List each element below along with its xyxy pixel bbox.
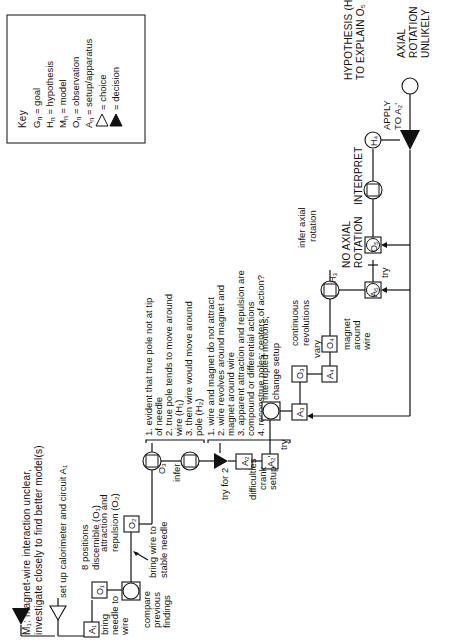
svg-text:try: try	[278, 439, 289, 450]
svg-text:stable needle: stable needle	[158, 521, 169, 578]
label-apply: APPLY TO A₂'	[381, 99, 403, 130]
node-axial-unlikely	[402, 78, 418, 94]
svg-text:A₄: A₄	[325, 369, 335, 379]
svg-text:APPLY: APPLY	[381, 99, 392, 130]
label-compare: compare previous findings	[141, 591, 172, 628]
svg-text:ROTATION: ROTATION	[353, 216, 364, 268]
svg-text:wire: wire	[361, 333, 372, 351]
svg-text:O₃: O₃	[295, 368, 305, 379]
svg-text:vary: vary	[311, 340, 322, 358]
svg-text:A₁: A₁	[87, 625, 97, 634]
key-entry-setup: An = setup/apparatus	[83, 39, 95, 128]
key-entry-goal: Gn = goal	[31, 88, 43, 128]
svg-text:H₄: H₄	[369, 136, 379, 146]
key-entry-hypothesis: Hn = hypothesis	[44, 61, 56, 128]
label-crank-setup: crank setup	[257, 467, 278, 490]
svg-text:infer: infer	[171, 464, 182, 482]
svg-text:interrupted motions;: interrupted motions;	[259, 316, 270, 400]
svg-text:wire: wire	[119, 618, 130, 636]
svg-text:investigate closely to find be: investigate closely to find better model…	[33, 445, 44, 635]
svg-text:UNLIKELY: UNLIKELY	[420, 9, 431, 58]
svg-text:A₅: A₅	[369, 287, 379, 297]
svg-text:O₅: O₅	[369, 241, 379, 252]
svg-text:repulsion (O₂): repulsion (O₂)	[109, 493, 120, 552]
svg-text:ROTATION: ROTATION	[408, 6, 419, 58]
model-m1-note: M₁: magnet-wire interaction unclear, inv…	[21, 445, 44, 635]
experiment-flow-diagram: Key Gn = goal Hn = hypothesis Mn = model…	[0, 0, 451, 643]
svg-text:revolutions: revolutions	[300, 300, 311, 346]
label-infer-axial: infer axial rotation	[296, 207, 318, 248]
label-interrupted: interrupted motions; change setup	[259, 316, 281, 400]
svg-text:M₁: magnet-wire interaction un: M₁: magnet-wire interaction unclear,	[21, 469, 32, 635]
svg-text:rotation: rotation	[307, 210, 318, 242]
svg-text:continuous: continuous	[289, 300, 300, 346]
key-title: Key	[17, 110, 28, 128]
final-decision-icon	[400, 130, 420, 150]
setup-note: set up calorimeter and circuit A₁	[57, 465, 68, 598]
svg-text:HYPOTHESIS (H₄): HYPOTHESIS (H₄)	[343, 0, 354, 80]
svg-text:TO A₂': TO A₂'	[392, 103, 403, 130]
svg-text:= decision: = decision	[110, 67, 121, 110]
svg-text:NO AXIAL: NO AXIAL	[341, 221, 352, 268]
label-continuous: continuous revolutions	[289, 300, 311, 346]
svg-text:= choice: = choice	[97, 74, 108, 110]
svg-text:AXIAL: AXIAL	[396, 28, 407, 58]
svg-text:INTERPRET: INTERPRET	[353, 147, 364, 205]
label-no-axial: NO AXIAL ROTATION	[341, 216, 364, 268]
svg-text:try for 2: try for 2	[219, 468, 230, 500]
svg-text:A₂': A₂'	[266, 456, 276, 467]
svg-text:O₂: O₂	[127, 518, 137, 529]
svg-text:O₄: O₄	[325, 338, 335, 349]
svg-text:set up calorimeter and circuit: set up calorimeter and circuit A₁	[57, 465, 68, 598]
label-bring-wire: bring wire to stable needle	[147, 521, 169, 578]
hypothesis-list-2: 1. wire and magnet do not attract 2. wir…	[205, 270, 266, 436]
start-choice-icon	[50, 606, 66, 620]
svg-text:findings: findings	[161, 595, 172, 628]
bracket-list-1	[146, 440, 204, 443]
svg-text:8 positions: 8 positions	[79, 524, 90, 570]
svg-text:setup: setup	[267, 467, 278, 490]
svg-text:try: try	[379, 267, 390, 278]
svg-text:O₃: O₃	[157, 463, 167, 474]
label-attraction: attraction and repulsion (O₂)	[98, 493, 120, 552]
svg-text:TO EXPLAIN O₅: TO EXPLAIN O₅	[355, 4, 366, 80]
label-axial-unlikely: AXIAL ROTATION UNLIKELY	[396, 6, 431, 58]
svg-text:O₁: O₁	[95, 585, 105, 595]
key-legend: Key Gn = goal Hn = hypothesis Mn = model…	[7, 15, 145, 143]
svg-text:pole (H₂): pole (H₂)	[193, 399, 204, 436]
decision-try-for-2-icon	[214, 453, 228, 469]
label-hypothesis-h4: HYPOTHESIS (H₄) TO EXPLAIN O₅	[343, 0, 366, 80]
svg-text:bring wire to: bring wire to	[147, 526, 158, 578]
label-bring-needle: bring needle to wire	[99, 596, 130, 636]
svg-text:change setup: change setup	[270, 343, 281, 400]
label-magnet-around-wire: magnet around wire	[341, 318, 372, 351]
svg-text:A₃: A₃	[295, 407, 305, 417]
hypothesis-list-1: 1. evident that true pole not at tip of …	[143, 294, 204, 437]
key-entry-observation: On = observation	[70, 57, 82, 128]
svg-text:infer axial: infer axial	[296, 207, 307, 248]
key-entry-model: Mn = model	[57, 79, 69, 128]
svg-text:attraction and: attraction and	[98, 494, 109, 552]
